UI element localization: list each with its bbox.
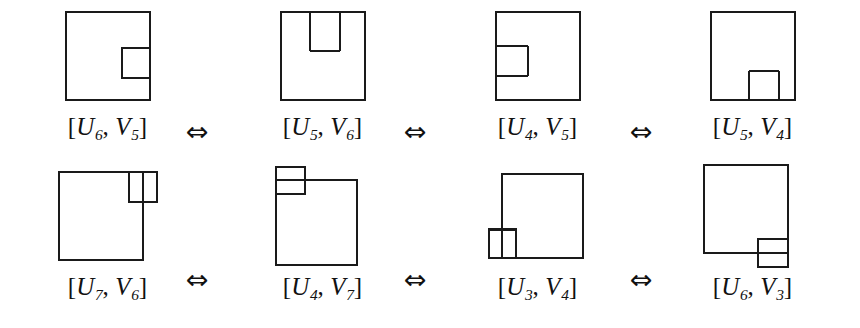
bracket-close: ] [569,273,578,300]
bracket-open: [ [68,113,77,140]
label-u7-v6: [U7, V6] [68,274,148,299]
equivalence-arrow-top-1: ⇔ [186,118,209,145]
equivalence-arrow-top-2: ⇔ [404,118,427,145]
figure-square-cells-top-right-overhang [28,160,188,272]
bracket-open: [ [498,113,507,140]
svg-u5-v4 [707,8,799,104]
comma: , [747,273,753,300]
v-letter: V [760,113,775,140]
v-index: 7 [346,286,354,303]
cell-inside [758,239,788,253]
svg-u7-v6 [55,168,161,264]
u-index: 4 [310,286,318,303]
diagram-item-u4-v7: [U4, V7] [215,160,430,324]
comma: , [102,273,108,300]
outer-boundary [59,172,143,260]
bracket-open: [ [68,273,77,300]
u-letter: U [721,113,739,140]
v-index: 6 [346,126,354,143]
outer-boundary [496,12,580,100]
figure-square-cells-top-left-overhang [243,160,403,272]
figure-square-cells-bottom-left-overhang [458,160,618,272]
cell-inside [129,172,143,202]
outer-boundary [281,12,365,100]
cell-overhang [758,253,788,267]
u-index: 6 [95,126,103,143]
cell-inside [502,229,515,258]
v-index: 4 [776,126,784,143]
diagram-item-u5-v6: [U5, V6] [215,0,430,164]
label-u4-v5: [U4, V5] [498,114,578,139]
equivalence-arrow-top-3: ⇔ [630,118,653,145]
v-letter: V [760,273,775,300]
equivalence-arrow-bottom-2: ⇔ [404,266,427,293]
comma: , [317,273,323,300]
cell-overhang [143,172,157,202]
figure-square-cells-bottom-right-overhang [673,160,833,272]
label-u4-v7: [U4, V7] [283,274,363,299]
outer-boundary [66,12,150,100]
diagram-row-top: [U6, V5] [U5, V6] [0,0,860,164]
v-letter: V [545,273,560,300]
v-letter: V [330,273,345,300]
cell-overhang [275,167,304,180]
figure-square-notch-left-upper [458,0,618,112]
comma: , [532,273,538,300]
svg-u6-v3 [700,161,806,271]
diagram-item-u5-v4: [U5, V4] [645,0,860,164]
u-index: 5 [740,126,748,143]
bracket-open: [ [283,113,292,140]
svg-u4-v7 [270,163,376,269]
bracket-close: ] [784,273,793,300]
comma: , [747,113,753,140]
bracket-close: ] [139,113,148,140]
equivalence-arrow-bottom-1: ⇔ [186,266,209,293]
u-letter: U [76,113,94,140]
v-index: 5 [561,126,569,143]
v-letter: V [115,273,130,300]
u-letter: U [291,273,309,300]
bracket-close: ] [784,113,793,140]
cell-inside [275,180,304,193]
diagram-board: [U6, V5] [U5, V6] [0,0,860,328]
label-u6-v3: [U6, V3] [713,274,793,299]
svg-u4-v5 [492,8,584,104]
v-index: 6 [131,286,139,303]
v-index: 5 [131,126,139,143]
svg-u5-v6 [277,8,369,104]
comma: , [317,113,323,140]
cell-overhang [488,229,501,258]
v-letter: V [545,113,560,140]
bracket-open: [ [498,273,507,300]
equivalence-arrow-bottom-3: ⇔ [630,266,653,293]
figure-square-notch-right-middle [28,0,188,112]
bracket-close: ] [569,113,578,140]
u-index: 7 [95,286,103,303]
diagram-item-u4-v5: [U4, V5] [430,0,645,164]
v-index: 3 [776,286,784,303]
diagram-item-u3-v4: [U3, V4] [430,160,645,324]
diagram-item-u6-v3: [U6, V3] [645,160,860,324]
diagram-row-bottom: [U7, V6] [U4, V7] [0,160,860,328]
diagram-item-u7-v6: [U7, V6] [0,160,215,324]
diagram-item-u6-v5: [U6, V5] [0,0,215,164]
outer-boundary [502,174,583,259]
v-letter: V [330,113,345,140]
label-u3-v4: [U3, V4] [498,274,578,299]
bracket-open: [ [713,273,722,300]
bracket-close: ] [354,113,363,140]
bracket-close: ] [139,273,148,300]
label-u5-v6: [U5, V6] [283,114,363,139]
u-letter: U [506,273,524,300]
v-index: 4 [561,286,569,303]
bracket-open: [ [283,273,292,300]
bracket-open: [ [713,113,722,140]
comma: , [102,113,108,140]
svg-u6-v5 [62,8,154,104]
u-index: 5 [310,126,318,143]
u-letter: U [291,113,309,140]
v-letter: V [115,113,130,140]
figure-square-notch-bottom-center [673,0,833,112]
label-u6-v5: [U6, V5] [68,114,148,139]
label-u5-v4: [U5, V4] [713,114,793,139]
